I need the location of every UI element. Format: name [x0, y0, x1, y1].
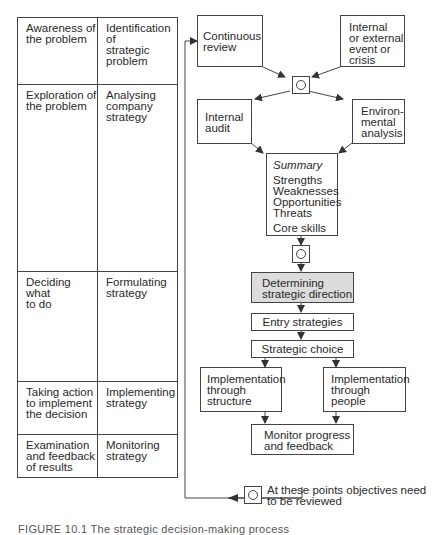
entry-strategies-box: Entry strategies: [251, 313, 354, 331]
box-text: analysis: [361, 128, 404, 139]
box-text: Strategic choice: [262, 343, 344, 355]
process-stages-table: Awareness of the problem Identification …: [17, 17, 178, 478]
box-text: strategic direction: [262, 289, 353, 300]
table-row: Monitoring strategy: [98, 435, 178, 462]
box-text: review: [203, 42, 262, 53]
internal-audit-box: Internal audit: [197, 99, 252, 144]
stage-text: the problem: [26, 34, 97, 45]
circle-icon: [296, 80, 306, 90]
monitor-progress-box: Monitor progress and feedback: [251, 424, 354, 455]
implementation-structure-box: Implementation through structure: [200, 367, 282, 412]
table-row: Identification of strategic problem: [98, 18, 178, 67]
review-point-icon: [292, 76, 310, 94]
strategy-text: problem: [106, 56, 178, 67]
implementation-people-box: Implementation through people: [323, 367, 406, 412]
table-row: Implementing strategy: [98, 382, 178, 409]
box-text: Entry strategies: [263, 316, 343, 328]
box-text: structure: [207, 396, 281, 407]
strategy-text: strategy: [106, 451, 178, 462]
strategy-text: Identification of: [106, 23, 178, 45]
strategy-text: strategy: [106, 112, 178, 123]
event-box: Internal or external event or crisis: [340, 15, 405, 67]
stage-text: of results: [26, 462, 97, 473]
strategy-text: strategy: [106, 288, 178, 299]
caption-text: FIGURE 10.1 The strategic decision-makin…: [18, 523, 289, 535]
table-row: Awareness of the problem: [18, 18, 97, 45]
box-text: and feedback: [264, 441, 353, 452]
box-text: crisis: [349, 55, 404, 66]
swot-summary-box: Summary Strengths Weaknesses Opportuniti…: [266, 153, 338, 236]
table-row: Deciding what to do: [18, 272, 97, 310]
table-row: Examination and feedback of results: [18, 435, 97, 473]
circle-icon: [296, 249, 306, 259]
stage-text: the decision: [26, 409, 97, 420]
table-row: Taking action to implement the decision: [18, 382, 97, 420]
summary-title: Summary: [273, 160, 337, 171]
box-text: people: [331, 396, 405, 407]
table-row: Exploration of the problem: [18, 85, 97, 112]
review-point-icon: [292, 245, 310, 263]
table-row: Formulating strategy: [98, 272, 178, 299]
core-skills: Core skills: [273, 223, 337, 234]
legend-line: to be reviewed: [267, 496, 426, 507]
figure-caption: FIGURE 10.1 The strategic decision-makin…: [18, 523, 289, 535]
stage-text: the problem: [26, 101, 97, 112]
environmental-analysis-box: Environ- mental analysis: [352, 99, 405, 144]
continuous-review-box: Continuous review: [197, 15, 263, 67]
circle-icon: [248, 490, 258, 500]
legend-text: At these points objectives need to be re…: [267, 485, 426, 507]
swot-item: Threats: [273, 208, 337, 219]
stage-text: Deciding what: [26, 277, 97, 299]
stage-text: to do: [26, 299, 97, 310]
strategy-text: strategy: [106, 398, 178, 409]
determining-strategic-direction-box: Determining strategic direction: [251, 272, 354, 303]
box-text: audit: [205, 123, 251, 134]
table-row: Analysing company strategy: [98, 85, 178, 123]
legend-review-point-icon: [244, 486, 262, 504]
strategic-choice-box: Strategic choice: [251, 340, 354, 358]
